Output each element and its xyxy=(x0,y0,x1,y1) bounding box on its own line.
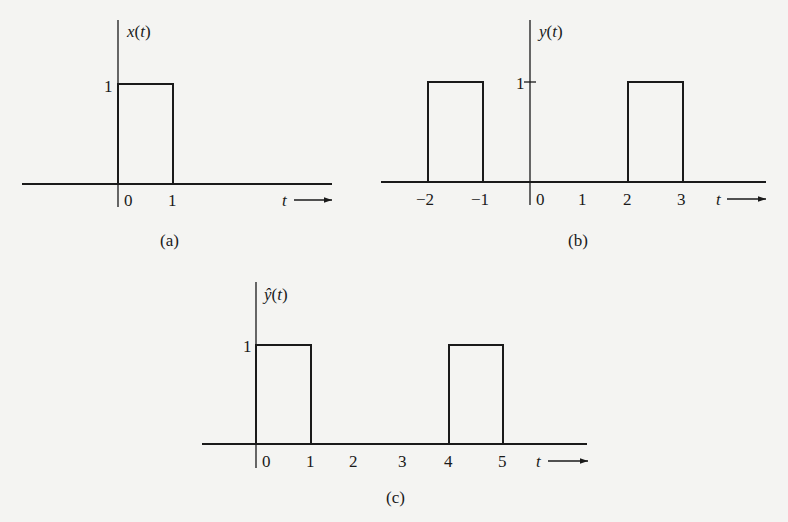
x-tick-label: −2 xyxy=(416,190,434,209)
signal-y-pulse-1 xyxy=(428,82,483,182)
x-tick-label: 0 xyxy=(124,191,133,210)
panel-b: y(t) 1 −2 −1 0 1 2 3 t (b) xyxy=(381,20,766,250)
x-axis-label: t xyxy=(282,191,288,210)
x-tick-label: 0 xyxy=(536,190,545,209)
y-axis-label: y(t) xyxy=(537,22,563,41)
y-tick-label: 1 xyxy=(243,337,252,356)
x-tick-label: 4 xyxy=(444,452,453,471)
x-tick-label: 1 xyxy=(168,191,177,210)
y-axis-label: ŷ(t) xyxy=(262,285,288,304)
signal-yhat-pulse-1 xyxy=(256,345,311,444)
panel-caption: (c) xyxy=(386,488,405,507)
x-tick-label: 5 xyxy=(498,452,507,471)
x-tick-label: 1 xyxy=(306,452,315,471)
x-tick-label: 2 xyxy=(349,452,358,471)
x-tick-label: −1 xyxy=(471,190,489,209)
panel-caption: (b) xyxy=(568,231,588,250)
x-axis-label: t xyxy=(536,452,542,471)
x-axis-label: t xyxy=(716,190,722,209)
x-tick-label: 1 xyxy=(578,190,587,209)
panel-a: x(t) 1 0 1 t (a) xyxy=(22,20,332,250)
signal-x-pulse xyxy=(118,84,173,184)
y-tick-label: 1 xyxy=(104,77,113,96)
x-tick-label: 2 xyxy=(623,190,632,209)
panel-c: ŷ(t) 1 0 1 2 3 4 5 t (c) xyxy=(202,282,588,507)
x-tick-label: 0 xyxy=(262,452,271,471)
x-tick-label: 3 xyxy=(677,190,686,209)
signal-figure: x(t) 1 0 1 t (a) y(t) 1 −2 −1 0 1 2 3 t … xyxy=(0,0,788,522)
x-tick-label: 3 xyxy=(398,452,407,471)
panel-caption: (a) xyxy=(160,231,179,250)
y-axis-label: x(t) xyxy=(126,22,151,41)
y-tick-label: 1 xyxy=(516,74,525,93)
signal-y-pulse-2 xyxy=(628,82,683,182)
signal-yhat-pulse-2 xyxy=(449,345,503,444)
